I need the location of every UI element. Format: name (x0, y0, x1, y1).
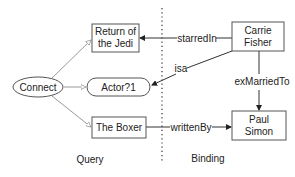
edge-connect-to-return-of-the-jedi (52, 40, 91, 78)
node-carrie-fisher-line1: Carrie (244, 25, 272, 36)
edge-label-starred-in: starredIn (177, 33, 216, 44)
node-the-boxer: The Boxer (92, 117, 146, 138)
node-paul-simon-line2: Simon (245, 126, 273, 137)
edge-label-written-by: writtenBy (169, 122, 211, 133)
node-return-of-the-jedi-line1: Return of (95, 26, 136, 37)
node-return-of-the-jedi-line2: the Jedi (98, 38, 133, 49)
node-connect-label: Connect (19, 82, 56, 93)
edge-isa-upper (187, 51, 232, 68)
node-connect: Connect (13, 77, 63, 97)
node-paul-simon-line1: Paul (249, 114, 269, 125)
edge-label-isa: isa (175, 63, 188, 74)
node-return-of-the-jedi: Return of the Jedi (92, 24, 139, 52)
section-label-binding: Binding (191, 153, 224, 164)
node-actor: Actor?1 (87, 78, 150, 96)
node-the-boxer-label: The Boxer (96, 122, 143, 133)
edge-connect-to-the-boxer (52, 96, 91, 127)
section-label-query: Query (76, 154, 103, 165)
edge-label-ex-married-to: exMarriedTo (234, 76, 289, 87)
edge-isa-lower (152, 74, 176, 85)
node-carrie-fisher-line2: Fisher (244, 37, 272, 48)
node-actor-label: Actor?1 (101, 82, 136, 93)
query-binding-diagram: starredIn isa exMarriedTo writtenBy Conn… (0, 0, 295, 177)
node-carrie-fisher: Carrie Fisher (232, 22, 284, 51)
node-paul-simon: Paul Simon (232, 111, 286, 140)
